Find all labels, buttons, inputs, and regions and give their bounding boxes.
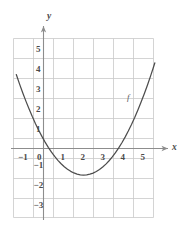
graph-figure: −1 0 1 2 3 4 5 5 4 3 2 1 −1 −2 −3 y x f xyxy=(0,0,190,233)
grid-horizontal-lines xyxy=(14,39,154,218)
graph-canvas xyxy=(0,0,190,233)
function-curve-f xyxy=(16,63,155,196)
y-axis xyxy=(41,26,46,220)
grid-vertical-lines xyxy=(14,39,154,218)
x-axis xyxy=(11,146,168,151)
